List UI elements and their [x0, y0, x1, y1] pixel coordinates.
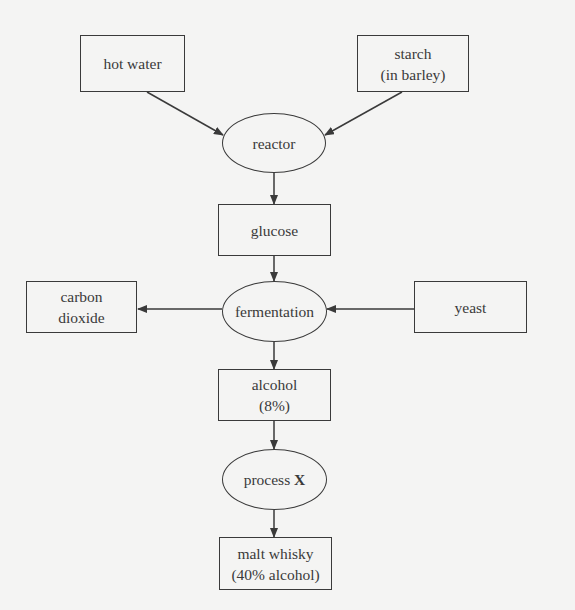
node-process-x: process X [222, 449, 327, 510]
node-alcohol-label-line-1: alcohol [252, 374, 298, 395]
node-process-x-label: process X [244, 469, 306, 490]
node-carbon-dioxide-label-line-1: carbon [60, 286, 102, 307]
node-glucose-label: glucose [251, 220, 298, 241]
node-carbon-dioxide: carbon dioxide [26, 281, 137, 333]
arrow-starch-to-reactor [325, 92, 402, 135]
node-starch-label-line-2: (in barley) [381, 64, 446, 85]
node-fermentation: fermentation [222, 281, 327, 342]
node-alcohol-label-line-2: (8%) [259, 395, 290, 416]
node-starch-label-line-1: starch [394, 43, 431, 64]
node-yeast-label: yeast [455, 297, 487, 318]
node-hot-water-label: hot water [103, 53, 161, 74]
node-malt-whisky-label-line-1: malt whisky [237, 543, 313, 564]
node-process-x-bold-letter: X [294, 471, 305, 488]
node-fermentation-label: fermentation [235, 301, 314, 322]
node-starch: starch (in barley) [357, 35, 469, 92]
flowchart: hot water starch (in barley) reactor glu… [0, 0, 575, 610]
node-reactor: reactor [222, 113, 326, 173]
node-reactor-label: reactor [252, 133, 295, 154]
node-process-x-text: process [244, 471, 294, 488]
node-malt-whisky: malt whisky (40% alcohol) [219, 537, 332, 590]
node-alcohol: alcohol (8%) [218, 369, 331, 421]
arrow-hot-water-to-reactor [147, 92, 223, 135]
node-glucose: glucose [218, 204, 331, 256]
node-hot-water: hot water [80, 35, 185, 92]
node-malt-whisky-label-line-2: (40% alcohol) [231, 564, 319, 585]
node-carbon-dioxide-label-line-2: dioxide [58, 307, 105, 328]
node-yeast: yeast [414, 281, 527, 333]
